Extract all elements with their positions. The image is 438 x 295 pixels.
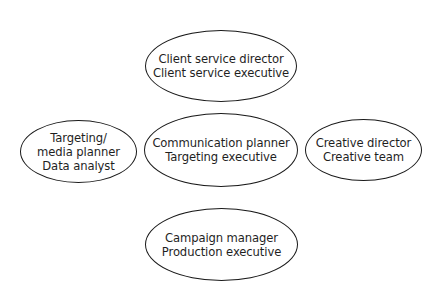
- node-label-line: Creative director: [316, 136, 412, 150]
- node-label-line: media planner: [37, 145, 120, 159]
- node-creative: Creative director Creative team: [305, 119, 422, 181]
- node-label-line: Production executive: [162, 245, 281, 259]
- node-client-service: Client service director Client service e…: [145, 30, 297, 102]
- node-communication-planner: Communication planner Targeting executiv…: [144, 113, 298, 187]
- node-label-line: Data analyst: [42, 159, 114, 173]
- node-targeting-media-planner: Targeting/ media planner Data analyst: [20, 120, 137, 183]
- node-label-line: Client service executive: [153, 66, 289, 80]
- node-label-line: Targeting executive: [165, 150, 277, 164]
- node-label-line: Communication planner: [152, 136, 289, 150]
- node-label-line: Campaign manager: [165, 231, 278, 245]
- node-campaign-production: Campaign manager Production executive: [145, 208, 298, 281]
- diagram-canvas: Client service director Client service e…: [0, 0, 438, 295]
- node-label-line: Creative team: [323, 150, 404, 164]
- node-label-line: Targeting/: [50, 131, 107, 145]
- node-label-line: Client service director: [158, 52, 283, 66]
